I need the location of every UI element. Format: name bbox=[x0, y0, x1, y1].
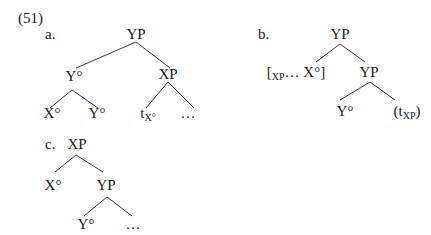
tree-a-left-right: Y° bbox=[89, 106, 106, 121]
tree-c-root: XP bbox=[67, 137, 86, 152]
tree-b-root: YP bbox=[330, 27, 349, 42]
tree-b-right: YP bbox=[359, 65, 378, 80]
tree-b-left: [XP… X°] bbox=[267, 65, 325, 84]
tree-c-ellipsis: … bbox=[126, 217, 141, 232]
tree-c-left: X° bbox=[45, 178, 62, 193]
tree-c-right-left: Y° bbox=[78, 217, 95, 232]
bracket-rest: … X°] bbox=[285, 64, 326, 80]
tree-a-left-left: X° bbox=[44, 106, 61, 121]
tree-a-left: Y° bbox=[66, 69, 83, 84]
tree-c-right: YP bbox=[96, 178, 115, 193]
tree-c-label: c. bbox=[45, 137, 55, 152]
tree-a-root: YP bbox=[126, 27, 145, 42]
tree-b-trace: (tXP) bbox=[394, 104, 421, 123]
tree-a-ellipsis: … bbox=[181, 106, 196, 121]
tree-b-label: b. bbox=[258, 27, 269, 42]
trace-subscript: XP bbox=[403, 110, 416, 121]
tree-edges bbox=[0, 0, 431, 235]
tree-b-right-left: Y° bbox=[337, 104, 354, 119]
trace-subscript: X° bbox=[144, 112, 155, 123]
tree-a-label: a. bbox=[45, 27, 55, 42]
trace-close: ) bbox=[415, 103, 420, 119]
bracket-subscript: XP bbox=[272, 71, 285, 82]
tree-a-right: XP bbox=[158, 67, 177, 82]
trace-open: (t bbox=[394, 103, 403, 119]
example-number: (51) bbox=[18, 11, 43, 26]
tree-a-trace: tX° bbox=[140, 106, 155, 125]
